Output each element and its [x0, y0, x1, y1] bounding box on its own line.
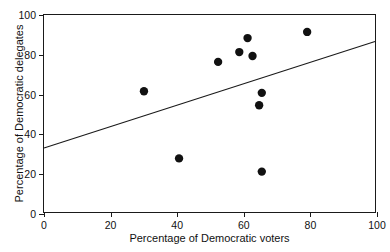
x-axis-tick-label: 100	[368, 220, 386, 231]
data-point	[235, 48, 243, 56]
y-axis-tick	[39, 174, 44, 175]
x-axis-tick-label: 40	[171, 220, 183, 231]
y-axis-title: Percentage of Democratic delegates	[12, 14, 26, 213]
y-axis-tick-label: 40	[24, 129, 36, 140]
x-axis-tick-label: 0	[41, 220, 47, 231]
data-point	[140, 87, 148, 95]
y-axis-tick	[39, 55, 44, 56]
data-point	[214, 58, 222, 66]
x-axis-tick-label: 80	[305, 220, 317, 231]
y-axis-tick	[39, 15, 44, 16]
plot-canvas	[44, 15, 375, 212]
x-axis-tick-label: 60	[238, 220, 250, 231]
data-point	[303, 28, 311, 36]
x-axis-tick	[377, 212, 378, 217]
data-point	[255, 101, 263, 109]
x-axis-title: Percentage of Democratic voters	[43, 233, 376, 244]
x-axis-tick	[177, 212, 178, 217]
y-axis-tick-label: 60	[24, 89, 36, 100]
x-axis-tick	[244, 212, 245, 217]
plot-area: 020406080100020406080100	[43, 14, 376, 213]
y-axis-tick-label: 20	[24, 169, 36, 180]
x-axis-tick	[310, 212, 311, 217]
x-axis-tick	[111, 212, 112, 217]
data-point	[243, 34, 251, 42]
y-axis-tick-label: 0	[30, 209, 36, 220]
x-axis-tick-label: 20	[105, 220, 117, 231]
y-axis-tick-label: 80	[24, 50, 36, 61]
data-point	[248, 52, 256, 60]
x-axis-tick	[44, 212, 45, 217]
regression-line	[44, 42, 375, 148]
data-point	[258, 89, 266, 97]
data-point	[175, 154, 183, 162]
y-axis-tick	[39, 95, 44, 96]
data-point	[258, 167, 266, 175]
y-axis-tick	[39, 134, 44, 135]
scatter-plot-figure: 020406080100020406080100 Percentage of D…	[0, 0, 390, 252]
